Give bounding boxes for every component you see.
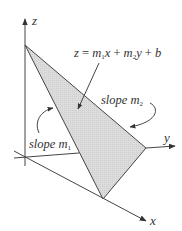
y-axis-label: y <box>164 131 170 144</box>
z-axis-label: z <box>32 14 37 27</box>
plane-triangle <box>25 45 146 199</box>
slope-m1-sub: 1 <box>68 144 72 152</box>
slope-m1-word: slope <box>29 137 55 151</box>
slope-m1-label: slope m1 <box>29 138 71 152</box>
eq-equals: = <box>82 46 89 60</box>
y-axis-near <box>14 153 79 158</box>
eq-m2: m <box>124 46 133 60</box>
slope-m2-label: slope m2 <box>101 94 143 108</box>
slope-m2-var: m <box>131 93 140 107</box>
eq-z: z <box>74 46 79 60</box>
slope-m2-sub: 2 <box>140 100 144 108</box>
slope-m1-arrow <box>37 108 53 133</box>
diagram-canvas <box>0 0 182 231</box>
slope-m1-var: m <box>59 137 68 151</box>
eq-plus2: + <box>145 46 152 60</box>
plane-equation: z = m1x + m2y + b <box>74 47 161 61</box>
y-axis-far <box>146 146 175 148</box>
eq-y: y <box>136 46 142 60</box>
plane-diagram: z y x z = m1x + m2y + b slope m2 slope m… <box>0 0 182 231</box>
x-axis-label: x <box>150 214 156 227</box>
eq-b: b <box>155 46 161 60</box>
eq-x: x <box>105 46 111 60</box>
slope-m2-word: slope <box>101 93 127 107</box>
eq-m1: m <box>92 46 101 60</box>
eq-plus1: + <box>113 46 120 60</box>
